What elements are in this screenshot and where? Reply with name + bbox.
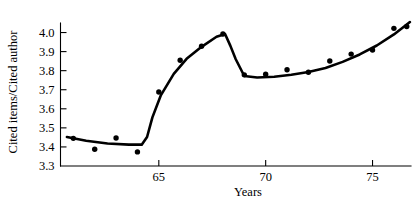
data-point xyxy=(263,72,268,77)
data-point xyxy=(71,136,76,141)
x-axis-title: Years xyxy=(234,185,262,199)
y-tick-label: 4.0 xyxy=(39,26,55,40)
data-point xyxy=(135,149,140,154)
data-point xyxy=(113,135,118,140)
data-point xyxy=(199,44,204,49)
y-axis-title: Cited items/Cited author xyxy=(6,30,20,154)
y-tick-label: 3.5 xyxy=(39,121,55,135)
data-point xyxy=(327,58,332,63)
data-point xyxy=(242,72,247,77)
y-tick-label: 3.7 xyxy=(39,83,55,97)
x-tick-label: 75 xyxy=(366,170,379,184)
chart-canvas: 3.33.43.53.63.73.83.94.0657075 Cited ite… xyxy=(0,0,417,204)
data-point xyxy=(306,69,311,74)
y-tick-label: 3.3 xyxy=(39,159,55,173)
y-axis-ticks xyxy=(61,33,67,147)
data-points xyxy=(71,24,410,155)
chart-figure: 3.33.43.53.63.73.83.94.0657075 Cited ite… xyxy=(0,0,417,204)
data-point xyxy=(177,57,182,62)
x-tick-label: 70 xyxy=(259,170,272,184)
data-point xyxy=(391,26,396,31)
data-point xyxy=(404,24,409,29)
y-tick-label: 3.6 xyxy=(39,102,55,116)
data-point xyxy=(284,67,289,72)
trend-line xyxy=(67,22,410,145)
y-tick-label: 3.8 xyxy=(39,64,55,78)
data-point xyxy=(156,89,161,94)
y-tick-label: 3.9 xyxy=(39,45,55,59)
data-point xyxy=(348,51,353,56)
data-point xyxy=(92,147,97,152)
axis-labels: 3.33.43.53.63.73.83.94.0657075 xyxy=(39,26,379,184)
data-point xyxy=(220,31,225,36)
x-axis-ticks xyxy=(159,160,373,166)
x-tick-label: 65 xyxy=(153,170,166,184)
data-point xyxy=(370,47,375,52)
y-tick-label: 3.4 xyxy=(39,140,55,154)
